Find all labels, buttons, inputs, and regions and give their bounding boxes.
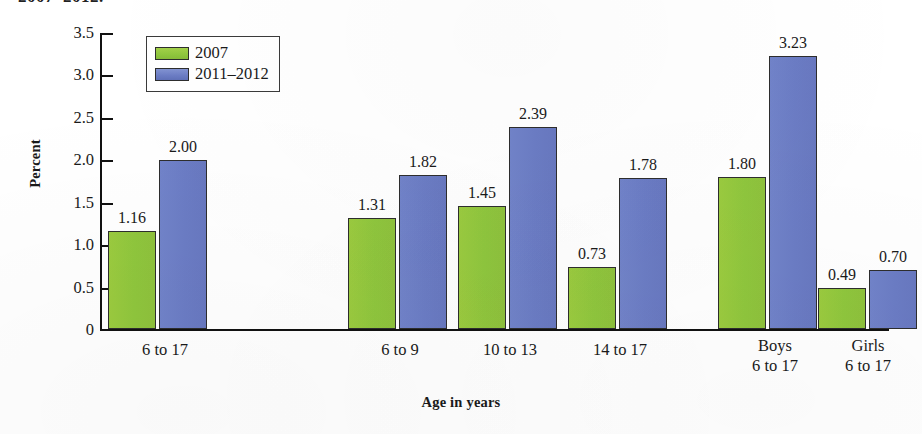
- bar-2007-10-to-13: [458, 206, 506, 329]
- legend-item-2011-2012: 2011–2012: [155, 64, 269, 85]
- bar-2011-2012-6-to-17: [159, 160, 207, 329]
- bar-value-label: 0.49: [812, 267, 872, 283]
- bar-chart-figure: 2007–2012. Percent 3.5 3.0 2.5 2.0 1.5 1…: [0, 0, 922, 434]
- x-axis-line: [100, 329, 889, 331]
- legend-label: 2011–2012: [195, 66, 269, 83]
- bar-2007-14-to-17: [568, 267, 616, 329]
- y-tick-label: 1.5: [52, 195, 94, 212]
- bar-value-label: 2.39: [503, 106, 563, 122]
- bar-value-label: 0.70: [863, 249, 922, 265]
- y-axis-title: Percent: [27, 114, 44, 214]
- bar-2011-2012-boys-6-to-17: [769, 56, 817, 329]
- bar-2007-girls-6-to-17: [818, 288, 866, 329]
- legend-swatch-icon: [155, 68, 189, 81]
- y-tick-label: 3.5: [52, 25, 94, 42]
- bar-value-label: 0.73: [562, 246, 622, 262]
- bar-value-label: 1.31: [342, 197, 402, 213]
- x-axis-group-label: Girls 6 to 17: [800, 336, 922, 377]
- legend-swatch-icon: [155, 47, 189, 60]
- bar-2007-boys-6-to-17: [718, 177, 766, 329]
- bar-2011-2012-girls-6-to-17: [869, 270, 917, 329]
- legend: 2007 2011–2012: [146, 36, 280, 92]
- y-tick-label: 0.5: [52, 280, 94, 297]
- bar-value-label: 1.45: [452, 185, 512, 201]
- bar-value-label: 2.00: [153, 139, 213, 155]
- y-tick-label: 2.0: [52, 152, 94, 169]
- bar-value-label: 1.16: [102, 210, 162, 226]
- x-axis-group-label: 6 to 17: [90, 340, 240, 360]
- bar-2011-2012-14-to-17: [619, 178, 667, 329]
- bar-2007-6-to-17: [108, 231, 156, 329]
- y-tick-label: 3.0: [52, 67, 94, 84]
- bar-value-label: 1.82: [393, 154, 453, 170]
- y-axis-tick-labels: 3.5 3.0 2.5 2.0 1.5 1.0 0.5 0: [52, 0, 94, 434]
- x-axis-title: Age in years: [0, 394, 922, 411]
- bar-2007-6-to-9: [348, 218, 396, 329]
- y-tick-label: 2.5: [52, 110, 94, 127]
- bar-value-label: 1.80: [712, 156, 772, 172]
- legend-item-2007: 2007: [155, 43, 269, 64]
- y-tick-label: 0: [52, 322, 94, 339]
- bar-value-label: 1.78: [613, 157, 673, 173]
- legend-label: 2007: [195, 45, 228, 62]
- bar-value-label: 3.23: [763, 35, 823, 51]
- x-axis-group-label: 14 to 17: [550, 340, 690, 360]
- bar-2011-2012-10-to-13: [509, 127, 557, 329]
- y-tick-label: 1.0: [52, 237, 94, 254]
- bar-2011-2012-6-to-9: [399, 175, 447, 329]
